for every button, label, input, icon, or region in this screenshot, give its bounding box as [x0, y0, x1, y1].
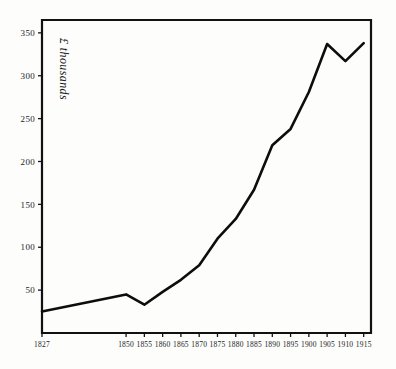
y-tick-label: 150 — [21, 200, 36, 210]
chart-container: 5010015020025030035018271850185518601865… — [0, 0, 396, 369]
data-series-line — [42, 43, 364, 311]
line-chart: 5010015020025030035018271850185518601865… — [0, 0, 396, 369]
x-tick-label: 1870 — [191, 340, 207, 349]
plot-frame — [42, 20, 371, 333]
y-tick-label: 350 — [21, 28, 36, 38]
x-tick-label: 1905 — [319, 340, 335, 349]
y-tick-label: 300 — [21, 71, 36, 81]
x-tick-label: 1855 — [136, 340, 152, 349]
y-tick-label: 250 — [21, 114, 36, 124]
x-tick-label: 1895 — [283, 340, 299, 349]
y-axis-title: £ thousands — [57, 38, 71, 100]
x-tick-label: 1880 — [228, 340, 244, 349]
x-tick-label: 1865 — [173, 340, 189, 349]
x-tick-label: 1860 — [155, 340, 171, 349]
x-tick-label: 1850 — [118, 340, 134, 349]
x-tick-label: 1915 — [356, 340, 372, 349]
x-tick-label: 1900 — [301, 340, 317, 349]
y-tick-label: 50 — [25, 285, 35, 295]
x-tick-label: 1910 — [338, 340, 354, 349]
y-tick-label: 200 — [21, 157, 36, 167]
x-tick-label: 1827 — [34, 340, 50, 349]
x-tick-label: 1875 — [210, 340, 226, 349]
x-tick-label: 1890 — [264, 340, 280, 349]
y-tick-label: 100 — [21, 242, 36, 252]
x-tick-label: 1885 — [246, 340, 262, 349]
